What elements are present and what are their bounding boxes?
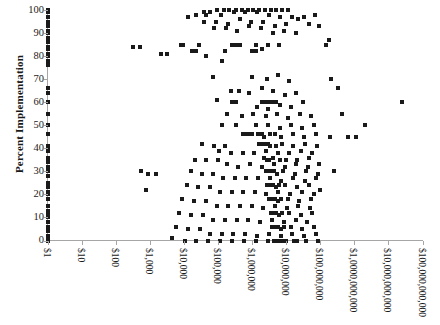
x-tick-mark: [218, 241, 219, 245]
y-tick-mark: [44, 102, 48, 103]
data-point: [267, 13, 271, 17]
data-point: [279, 179, 283, 183]
data-point: [282, 220, 286, 224]
y-tick-mark: [44, 217, 48, 218]
data-point: [271, 31, 275, 35]
data-point: [206, 239, 210, 243]
data-point: [276, 151, 280, 155]
data-point: [194, 49, 198, 53]
data-point: [275, 112, 279, 116]
data-point: [363, 123, 367, 127]
data-point: [231, 232, 235, 236]
data-point: [46, 229, 50, 233]
data-point: [287, 211, 291, 215]
data-point: [215, 8, 219, 12]
data-point: [252, 151, 256, 155]
x-tick-mark: [423, 241, 424, 245]
data-point: [225, 162, 229, 166]
data-point: [308, 206, 312, 210]
data-point: [46, 211, 50, 215]
data-point: [270, 218, 274, 222]
data-point: [294, 91, 298, 95]
data-point: [336, 86, 340, 90]
data-point: [310, 211, 314, 215]
data-point: [281, 169, 285, 173]
data-point: [216, 158, 220, 162]
data-point: [258, 220, 262, 224]
data-point: [221, 176, 225, 180]
data-point: [238, 43, 242, 47]
data-point: [189, 169, 193, 173]
data-point: [204, 13, 208, 17]
data-point: [46, 225, 50, 229]
data-point: [46, 24, 50, 28]
plot-area: [0, 0, 440, 325]
data-point: [144, 188, 148, 192]
data-point: [131, 45, 135, 49]
x-tick-mark: [82, 241, 83, 245]
data-point: [247, 24, 251, 28]
data-point: [202, 20, 206, 24]
data-point: [295, 239, 299, 243]
data-point: [241, 151, 245, 155]
data-point: [275, 172, 279, 176]
x-tick-mark: [286, 241, 287, 245]
data-point: [177, 211, 181, 215]
data-point: [254, 123, 258, 127]
data-point: [243, 232, 247, 236]
data-point: [159, 52, 163, 56]
data-point: [282, 225, 286, 229]
data-point: [237, 89, 241, 93]
data-point: [290, 232, 294, 236]
data-point: [46, 185, 50, 189]
data-point: [246, 218, 250, 222]
data-point: [268, 144, 272, 148]
data-point: [219, 13, 223, 17]
data-point: [165, 52, 169, 56]
data-point: [346, 135, 350, 139]
data-point: [309, 114, 313, 118]
data-point: [260, 47, 264, 51]
data-point: [310, 151, 314, 155]
data-point: [316, 239, 320, 243]
data-point: [46, 197, 50, 201]
data-point: [204, 199, 208, 203]
data-point: [300, 126, 304, 130]
data-point: [316, 172, 320, 176]
scatter-chart: Percent Implementation 10090807060504030…: [0, 0, 440, 325]
data-point: [318, 188, 322, 192]
data-point: [312, 192, 316, 196]
data-point: [46, 91, 50, 95]
data-point: [301, 100, 305, 104]
data-point: [302, 135, 306, 139]
data-point: [46, 165, 50, 169]
data-point: [294, 218, 298, 222]
y-tick-mark: [44, 79, 48, 80]
data-point: [296, 204, 300, 208]
data-point: [276, 190, 280, 194]
data-point: [313, 13, 317, 17]
data-point: [244, 176, 248, 180]
data-point: [263, 8, 267, 12]
data-point: [220, 59, 224, 63]
data-point: [289, 105, 293, 109]
x-tick-mark: [320, 241, 321, 245]
data-point: [235, 29, 239, 33]
data-point: [307, 156, 311, 160]
data-point: [242, 239, 246, 243]
data-point: [249, 20, 253, 24]
data-point: [46, 63, 50, 67]
data-point: [238, 204, 242, 208]
data-point: [340, 112, 344, 116]
data-point: [241, 190, 245, 194]
data-point: [273, 204, 277, 208]
data-point: [255, 105, 259, 109]
data-point: [286, 8, 290, 12]
data-point: [286, 116, 290, 120]
data-point: [303, 142, 307, 146]
data-point: [309, 197, 313, 201]
data-point: [196, 185, 200, 189]
data-point: [260, 165, 264, 169]
y-tick-mark: [44, 171, 48, 172]
data-point: [204, 158, 208, 162]
